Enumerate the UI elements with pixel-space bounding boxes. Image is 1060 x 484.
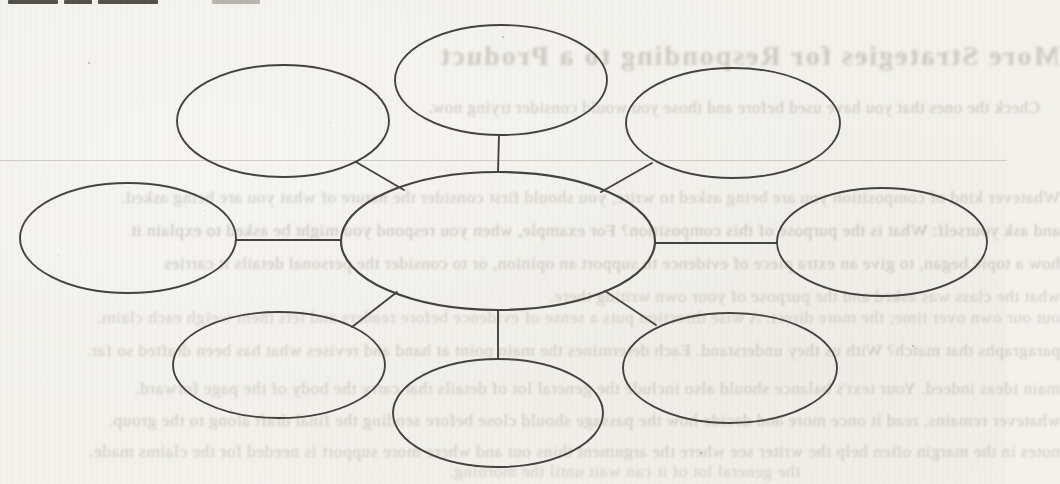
diagram-node-bottom-right — [623, 313, 837, 423]
diagram-node-top-center — [395, 25, 607, 135]
diagram-node-bottom-center — [393, 359, 603, 467]
diagram-node-top-left — [177, 65, 389, 177]
scan-noise-speck — [142, 420, 143, 421]
scan-noise-speck — [912, 345, 914, 347]
diagram-node-center — [341, 172, 655, 310]
diagram-node-top-right — [626, 68, 840, 178]
scan-noise-speck — [58, 255, 59, 256]
scan-noise-speck — [88, 62, 90, 64]
scan-noise-speck — [742, 232, 743, 233]
diagram-node-bottom-left — [173, 312, 385, 418]
scan-noise-speck — [962, 60, 963, 61]
connector-line-bottom-left — [352, 292, 397, 327]
scan-noise-speck — [828, 118, 829, 119]
connector-line-top-right — [601, 163, 652, 192]
diagram-node-middle-left — [20, 183, 236, 293]
connector-line-top-left — [356, 162, 404, 190]
diagram-node-middle-right — [777, 188, 987, 296]
scan-noise-speck — [700, 452, 702, 454]
connector-line-bottom-right — [605, 291, 656, 325]
scan-noise-speck — [204, 210, 205, 211]
scan-noise-speck — [610, 300, 611, 301]
scan-noise-speck — [502, 36, 504, 38]
scan-noise-speck — [330, 122, 331, 123]
connector-line-top-center — [498, 135, 499, 172]
